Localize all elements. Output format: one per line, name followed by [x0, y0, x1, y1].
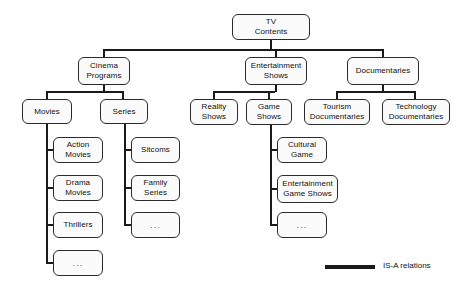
legend-is-a-line: [325, 265, 375, 269]
node-series[interactable]: Series: [100, 99, 148, 124]
node-technology-documentaries[interactable]: Technology Documentaries: [382, 99, 450, 125]
edge-entertain-bus: [213, 91, 275, 93]
node-movies-more[interactable]: ...: [53, 250, 103, 276]
edge-series-trunk: [124, 124, 126, 225]
node-reality-shows[interactable]: Reality Shows: [190, 99, 238, 125]
node-documentaries[interactable]: Documentaries: [347, 57, 419, 85]
node-cultural-game[interactable]: Cultural Game: [277, 137, 327, 163]
edge-root-bus: [103, 49, 384, 51]
node-thrillers[interactable]: Thrillers: [53, 212, 103, 238]
node-game-shows[interactable]: Game Shows: [246, 99, 292, 125]
node-series-more[interactable]: ...: [131, 212, 180, 238]
diagram-canvas: TV ContentsCinema ProgramsEntertainment …: [0, 0, 469, 293]
node-tourism-documentaries[interactable]: Tourism Documentaries: [304, 99, 370, 125]
edge-cinema-bus: [46, 91, 124, 93]
node-action-movies[interactable]: Action Movies: [53, 137, 103, 163]
node-entertainment-game-shows[interactable]: Entertainment Game Shows: [277, 175, 338, 203]
edge-docs-bus: [336, 91, 416, 93]
node-entertainment-shows[interactable]: Entertainment Shows: [245, 57, 307, 85]
node-cinema-programs[interactable]: Cinema Programs: [78, 57, 130, 85]
edge-movies-trunk: [46, 124, 48, 263]
node-movies[interactable]: Movies: [22, 99, 72, 124]
node-family-series[interactable]: Family Series: [131, 175, 180, 201]
edge-entertain-stub: [275, 85, 277, 92]
node-game-shows-more[interactable]: ...: [277, 212, 327, 238]
node-sitcoms[interactable]: Sitcoms: [131, 137, 180, 163]
node-drama-movies[interactable]: Drama Movies: [53, 175, 103, 201]
legend-is-a-label: IS-A relations: [383, 261, 431, 270]
node-tv-contents[interactable]: TV Contents: [232, 14, 310, 40]
edge-game-trunk: [270, 125, 272, 225]
